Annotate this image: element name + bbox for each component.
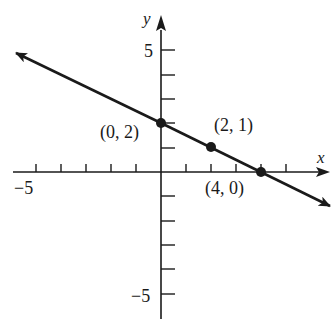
- point-0-2: [156, 118, 166, 128]
- x-tick-label-neg5: −5: [14, 178, 33, 198]
- line-left-segment: [16, 53, 161, 123]
- point-label-4-0: (4, 0): [205, 178, 244, 199]
- point-label-0-2: (0, 2): [100, 122, 139, 143]
- x-axis-label: x: [316, 148, 325, 167]
- y-axis-arrow-icon: [156, 15, 166, 31]
- line-graph: x −5 y 5 −5 (0, 2) (2, 1) (4, 0): [0, 0, 333, 319]
- y-tick-label-pos5: 5: [144, 41, 153, 61]
- y-axis: y 5 −5: [131, 9, 175, 319]
- point-label-2-1: (2, 1): [214, 115, 253, 136]
- y-axis-label: y: [141, 9, 151, 28]
- y-tick-label-neg5: −5: [131, 286, 150, 306]
- point-2-1: [206, 142, 216, 152]
- x-axis: x −5: [13, 148, 330, 198]
- point-4-0: [256, 167, 266, 177]
